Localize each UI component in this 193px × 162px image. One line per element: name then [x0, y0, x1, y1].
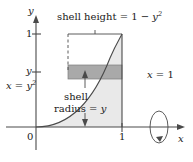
shell-radius-label-line1: shell — [64, 92, 88, 102]
y-axis-arrowhead — [33, 15, 39, 23]
y-tick-label-1: 1 — [26, 29, 32, 39]
curve-equation-label: x = y2 — [6, 80, 36, 91]
x-axis-arrowhead — [177, 124, 185, 130]
right-boundary-label: x = 1 — [147, 70, 174, 80]
shell-strip — [68, 65, 122, 79]
x-axis-label: x — [178, 134, 184, 144]
origin-label: 0 — [27, 132, 33, 142]
shell-method-figure: shell height = 1 − y2 x = y2 x = 1 shell… — [0, 0, 193, 162]
shell-height-label: shell height = 1 − y2 — [57, 11, 162, 22]
y-axis-label: y — [28, 6, 34, 16]
shell-radius-label-line2: radius = y — [54, 104, 106, 114]
revolution-direction-arrowhead — [156, 136, 163, 142]
y-tick-label-y: y — [26, 66, 32, 76]
x-tick-label-1: 1 — [119, 132, 125, 142]
